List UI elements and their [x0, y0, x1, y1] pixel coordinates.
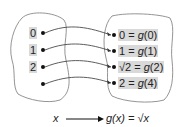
function-arrow-head: [98, 116, 104, 122]
domain-label-1: 1: [29, 44, 37, 56]
function-arg: 4: [147, 77, 153, 89]
function-arg: 2: [154, 61, 160, 73]
mapping-curve-2: [45, 61, 111, 67]
range-label-2: 2 = g(4): [118, 77, 158, 89]
range-label-sqrt2: √2 = g(2): [118, 61, 164, 73]
domain-set-outline: [11, 13, 69, 102]
range-value: √2: [119, 61, 131, 73]
range-point-0: [112, 33, 116, 37]
domain-label-0: 0: [29, 27, 37, 39]
range-label-0: 0 = g(0): [118, 29, 158, 41]
range-point-1: [112, 49, 116, 53]
domain-label-2: 2: [29, 61, 37, 73]
domain-point-2: [41, 65, 45, 69]
function-arg: 1: [147, 45, 153, 57]
function-name: g: [138, 29, 144, 41]
domain-point-0: [41, 31, 45, 35]
range-label-1: 1 = g(1): [118, 45, 158, 57]
domain-point-4: [41, 82, 45, 86]
caption-input: x: [53, 112, 59, 124]
range-value: 2: [119, 77, 125, 89]
caption-output: g(x) = √x: [106, 112, 149, 124]
mapping-curve-0: [45, 27, 111, 35]
function-name: g: [138, 77, 144, 89]
range-point-2: [112, 81, 116, 85]
arrowhead-1: [107, 48, 111, 52]
mapping-curve-1: [45, 44, 111, 51]
range-value: 0: [119, 29, 125, 41]
function-name: g: [138, 45, 144, 57]
range-point-sqrt2: [112, 65, 116, 69]
function-name: g: [144, 61, 150, 73]
function-arg: 0: [147, 29, 153, 41]
arrowhead-0: [107, 32, 111, 36]
range-value: 1: [119, 45, 125, 57]
domain-point-1: [41, 48, 45, 52]
mapping-curve-4: [45, 77, 111, 84]
